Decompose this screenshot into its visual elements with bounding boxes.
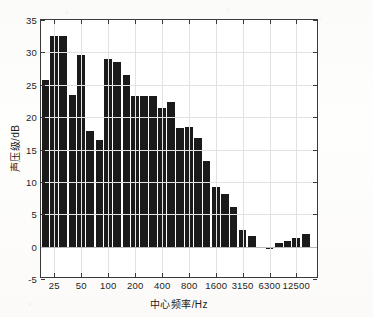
x-gridline xyxy=(270,20,271,277)
x-axis-tick xyxy=(216,273,217,277)
bar xyxy=(230,207,238,246)
zero-baseline xyxy=(41,247,317,248)
y-axis-tick xyxy=(313,85,317,86)
x-axis-tick xyxy=(296,20,297,24)
x-axis-tick-label: 12500 xyxy=(283,280,310,291)
y-axis-tick xyxy=(41,85,45,86)
y-gridline xyxy=(41,85,317,86)
y-axis-tick-label: 0 xyxy=(32,241,37,252)
x-axis-tick xyxy=(189,273,190,277)
x-axis-tick-label: 3150 xyxy=(232,280,254,291)
bar xyxy=(149,96,157,247)
y-axis-tick xyxy=(313,20,317,21)
bar xyxy=(302,234,310,246)
y-gridline xyxy=(41,182,317,183)
x-axis-tick xyxy=(108,273,109,277)
x-axis-title: 中心频率/Hz xyxy=(40,296,318,311)
y-axis-tick xyxy=(41,182,45,183)
x-axis-tick xyxy=(81,273,82,277)
x-axis-tick xyxy=(135,20,136,24)
x-gridline xyxy=(81,20,82,277)
y-axis-title-text: 声压级/dB xyxy=(8,125,23,172)
x-axis-tick-label: 50 xyxy=(76,280,87,291)
y-axis-tick xyxy=(313,150,317,151)
x-axis-tick xyxy=(54,273,55,277)
x-axis-tick xyxy=(81,20,82,24)
x-gridline xyxy=(135,20,136,277)
y-gridline xyxy=(41,214,317,215)
x-gridline xyxy=(296,20,297,277)
bar xyxy=(248,236,256,247)
x-axis-tick-label: 25 xyxy=(49,280,60,291)
bar xyxy=(96,140,104,247)
x-axis-tick xyxy=(54,20,55,24)
y-axis-tick-label: 5 xyxy=(32,209,37,220)
y-axis-tick-label: 20 xyxy=(26,112,37,123)
x-axis-tick xyxy=(162,273,163,277)
chart-figure: -505101520253035255010020040080016003150… xyxy=(0,0,373,317)
bar-series xyxy=(41,20,317,277)
y-axis-tick xyxy=(41,214,45,215)
y-gridline xyxy=(41,52,317,53)
y-axis-tick-label: 10 xyxy=(26,176,37,187)
bar xyxy=(194,138,202,246)
y-axis-tick xyxy=(41,279,45,280)
y-axis-tick xyxy=(313,117,317,118)
bar xyxy=(42,80,50,247)
x-axis-tick-label: 200 xyxy=(127,280,143,291)
x-axis-tick xyxy=(108,20,109,24)
x-gridline xyxy=(243,20,244,277)
x-gridline xyxy=(216,20,217,277)
x-axis-tick-label: 100 xyxy=(100,280,116,291)
x-axis-tick xyxy=(243,20,244,24)
x-axis-tick xyxy=(162,20,163,24)
x-axis-tick xyxy=(216,20,217,24)
bar xyxy=(140,96,148,247)
x-axis-tick xyxy=(270,20,271,24)
y-axis-title: 声压级/dB xyxy=(8,19,22,278)
x-axis-tick-label: 6300 xyxy=(259,280,281,291)
y-axis-tick-label: 35 xyxy=(26,15,37,26)
y-axis-tick-label: -5 xyxy=(28,274,37,285)
y-axis-tick xyxy=(313,214,317,215)
x-axis-tick xyxy=(270,273,271,277)
y-gridline xyxy=(41,150,317,151)
x-axis-tick-label: 800 xyxy=(181,280,197,291)
x-gridline xyxy=(108,20,109,277)
x-axis-tick-label: 1600 xyxy=(205,280,227,291)
y-axis-tick-label: 30 xyxy=(26,47,37,58)
bar xyxy=(221,194,229,246)
bar xyxy=(203,161,211,246)
x-axis-tick-label: 400 xyxy=(154,280,170,291)
x-axis-tick xyxy=(135,273,136,277)
x-axis-tick xyxy=(243,273,244,277)
y-axis-tick xyxy=(313,52,317,53)
bar xyxy=(167,102,175,247)
x-gridline xyxy=(189,20,190,277)
x-gridline xyxy=(162,20,163,277)
y-axis-tick-label: 15 xyxy=(26,144,37,155)
bar xyxy=(123,75,131,247)
x-gridline xyxy=(54,20,55,277)
bar xyxy=(113,62,121,247)
y-axis-tick xyxy=(41,52,45,53)
y-axis-tick xyxy=(41,117,45,118)
y-axis-tick xyxy=(41,20,45,21)
x-axis-tick xyxy=(189,20,190,24)
x-axis-tick xyxy=(296,273,297,277)
plot-axes: -505101520253035255010020040080016003150… xyxy=(40,19,318,278)
y-axis-tick xyxy=(41,150,45,151)
y-axis-tick xyxy=(313,182,317,183)
y-axis-tick xyxy=(313,279,317,280)
bar xyxy=(176,128,184,246)
y-axis-tick-label: 25 xyxy=(26,79,37,90)
y-gridline xyxy=(41,117,317,118)
